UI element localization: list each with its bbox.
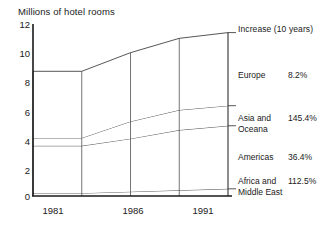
chart-container: Millions of hotel rooms Increase (10 yea… (0, 0, 335, 230)
plot-area (0, 0, 335, 230)
series-group (33, 33, 236, 196)
